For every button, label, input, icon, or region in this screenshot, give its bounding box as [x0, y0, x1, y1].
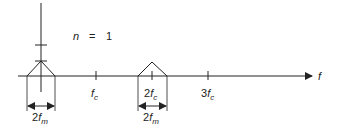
tick-fc-sub: c [94, 93, 98, 102]
annotation-eq: = [89, 30, 95, 42]
svg-text:2fm: 2fm [143, 111, 159, 126]
order-annotation: n = 1 [73, 30, 112, 42]
sideband-2fc: 2fc [138, 62, 167, 102]
svg-text:2fc: 2fc [144, 87, 157, 102]
bw1-sub: m [41, 117, 48, 126]
svg-text:3fc: 3fc [201, 87, 214, 102]
baseband-spectrum [27, 3, 55, 92]
spectrum-diagram: f fc 2fc 3fc 2fm [0, 0, 337, 133]
tick-2fc-sub: c [153, 93, 157, 102]
annotation-var: n [73, 30, 79, 42]
tick-3fc-sub: c [210, 93, 214, 102]
annotation-value: 1 [106, 30, 112, 42]
bw2-sub: m [152, 117, 159, 126]
svg-text:fc: fc [91, 87, 98, 102]
svg-text:2fm: 2fm [32, 111, 48, 126]
axis-label-f: f [318, 70, 322, 82]
